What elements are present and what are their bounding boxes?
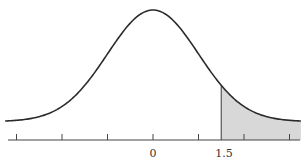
normal-curve-chart: 0 1.5 <box>0 0 307 167</box>
normal-curve <box>5 10 301 121</box>
tick-label-boundary: 1.5 <box>215 147 233 160</box>
shaded-tail-region <box>221 85 301 140</box>
tick-label-zero: 0 <box>150 147 157 160</box>
